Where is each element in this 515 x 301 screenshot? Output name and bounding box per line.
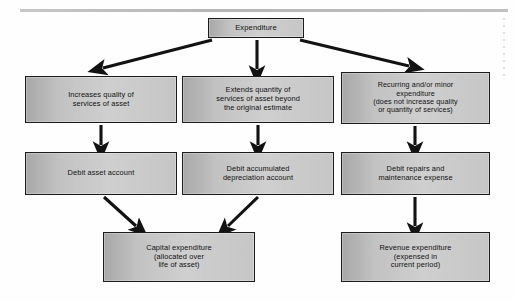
node-expenditure-label: Expenditure (231, 24, 281, 33)
node-expenditure: Expenditure (208, 18, 304, 38)
scan-edge-artifact (503, 18, 505, 80)
node-capital-expenditure-label: Capital expenditure (allocated over life… (142, 244, 216, 270)
flowchart-canvas: Expenditure Increases quality of service… (0, 0, 515, 301)
node-capital-expenditure: Capital expenditure (allocated over life… (103, 232, 255, 282)
edge-expenditure-to-recurring (300, 40, 409, 66)
top-divider-rule (20, 9, 508, 12)
node-increases-quality: Increases quality of services of asset (25, 76, 177, 123)
node-debit-accumulated-depreciation-label: Debit accumulated depreciation account (219, 165, 297, 182)
node-debit-asset-account-label: Debit asset account (64, 169, 139, 178)
node-increases-quality-label: Increases quality of services of asset (64, 91, 138, 108)
node-recurring-minor-expenditure-label: Recurring and/or minor expenditure (does… (369, 81, 462, 115)
node-extends-quantity-label: Extends quantity of services of asset be… (212, 86, 304, 112)
node-revenue-expenditure: Revenue expenditure (expensed in current… (341, 232, 490, 282)
node-recurring-minor-expenditure: Recurring and/or minor expenditure (does… (341, 72, 490, 124)
node-debit-repairs-maintenance: Debit repairs and maintenance expense (341, 152, 490, 195)
edge-expenditure-to-increases (103, 40, 212, 68)
node-extends-quantity: Extends quantity of services of asset be… (182, 76, 334, 123)
node-debit-accumulated-depreciation: Debit accumulated depreciation account (182, 152, 334, 195)
node-debit-repairs-maintenance-label: Debit repairs and maintenance expense (374, 165, 456, 182)
edge-debit-asset-to-capital (104, 197, 136, 226)
node-revenue-expenditure-label: Revenue expenditure (expensed in current… (375, 244, 455, 270)
edge-debit-accumulated-to-capital (228, 197, 258, 226)
node-debit-asset-account: Debit asset account (25, 152, 177, 195)
